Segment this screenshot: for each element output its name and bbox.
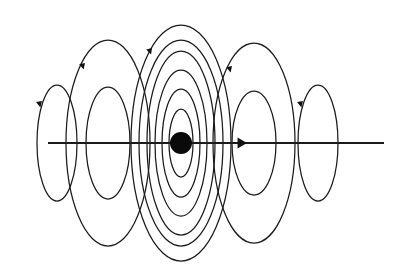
field-line-figure (0, 0, 402, 279)
loop-group-left-direction-arrow-icon (79, 61, 88, 70)
axis-arrow-icon (238, 137, 247, 148)
loop-group-center-direction-arrow-icon (146, 46, 155, 55)
current-axis (48, 137, 384, 148)
figure-canvas (0, 0, 402, 279)
loop-group-right-direction-arrow-icon (226, 64, 235, 73)
central-source-dot (170, 132, 192, 154)
